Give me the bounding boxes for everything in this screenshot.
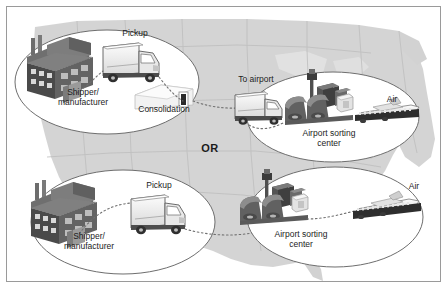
shipper-label-bottom-line2: manufacturer [64, 241, 114, 251]
airport-sorting-label-bottom-line1: Airport sorting [275, 229, 328, 239]
pickup-label-bottom: Pickup [146, 180, 172, 190]
shipper-label-line2: manufacturer [58, 97, 108, 107]
air-label-bottom: Air [409, 181, 419, 191]
to-airport-label: To airport [238, 74, 273, 84]
consolidation-label: Consolidation [138, 104, 190, 114]
airport-sorting-label-bottom-line2: center [289, 239, 313, 249]
airport-sorting-label-top-line1: Airport sorting [303, 128, 356, 138]
figure-root: Pickup Shipper/ manufacturer Consolidati… [0, 0, 448, 289]
figure-frame: Pickup Shipper/ manufacturer Consolidati… [6, 6, 441, 282]
shipper-label-line1: Shipper/ [67, 87, 99, 97]
pickup-label: Pickup [122, 28, 148, 38]
shipper-label-bottom-line1: Shipper/ [73, 231, 105, 241]
airport-sorting-label-top-line2: center [317, 138, 341, 148]
air-label-top: Air [387, 94, 397, 104]
or-connector-label: OR [201, 143, 219, 153]
diagram-canvas [7, 7, 440, 281]
